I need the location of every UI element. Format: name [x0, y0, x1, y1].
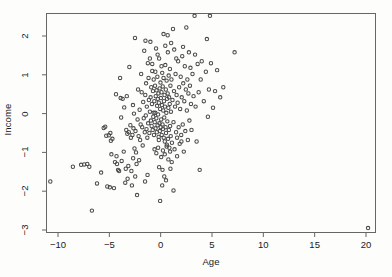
data-point [193, 53, 196, 56]
data-point [168, 150, 171, 153]
y-tick-label: 0 [19, 101, 31, 127]
data-point [156, 75, 159, 78]
data-point [161, 123, 164, 126]
data-point [149, 96, 152, 99]
data-point [172, 89, 175, 92]
data-point [163, 175, 166, 178]
data-point [135, 162, 138, 165]
data-point [171, 98, 174, 101]
data-point [139, 72, 142, 75]
data-point [127, 164, 130, 167]
data-point [111, 137, 114, 140]
data-point [186, 78, 189, 81]
data-point [173, 105, 176, 108]
data-point [183, 99, 186, 102]
data-point [140, 125, 143, 128]
data-point [150, 86, 153, 89]
data-point [192, 94, 195, 97]
y-tick-label: −1 [19, 139, 31, 165]
data-point [145, 127, 148, 130]
data-point [165, 111, 168, 114]
data-point [149, 119, 152, 122]
x-tick-label: 10 [243, 239, 283, 250]
data-point [157, 57, 160, 60]
data-point [120, 159, 123, 162]
data-point [162, 32, 165, 35]
data-point [175, 57, 178, 60]
data-point [143, 180, 146, 183]
data-point [150, 124, 153, 127]
data-point [222, 86, 225, 89]
y-tick-label: −2 [19, 178, 31, 204]
tick-marks [42, 36, 366, 237]
data-point [207, 88, 210, 91]
scatter-points [49, 14, 370, 230]
data-point [134, 175, 137, 178]
data-point [170, 78, 173, 81]
data-point [161, 85, 164, 88]
data-point [146, 173, 149, 176]
data-point [157, 165, 160, 168]
data-point [143, 49, 146, 52]
data-point [157, 138, 160, 141]
y-axis-title: Income [2, 88, 13, 152]
data-point [95, 182, 98, 185]
data-point [180, 140, 183, 143]
data-point [124, 181, 127, 184]
data-point [144, 39, 147, 42]
data-point [156, 113, 159, 116]
data-point [181, 123, 184, 126]
data-point [144, 93, 147, 96]
data-point [152, 78, 155, 81]
data-point [182, 150, 185, 153]
data-point [184, 88, 187, 91]
data-point [190, 128, 193, 131]
data-point [177, 125, 180, 128]
y-tick-label: 2 [19, 23, 31, 49]
data-point [119, 116, 122, 119]
data-point [156, 53, 159, 56]
scatter-plot-figure: Age Income −10−505101520 210−1−2−3 [0, 0, 392, 277]
data-point [194, 105, 197, 108]
data-point [133, 147, 136, 150]
data-point [141, 144, 144, 147]
data-point [213, 89, 216, 92]
data-point [112, 186, 115, 189]
data-point [195, 140, 198, 143]
plot-canvas [0, 0, 392, 277]
data-point [179, 75, 182, 78]
data-point [175, 136, 178, 139]
data-point [196, 62, 199, 65]
axis-frame [47, 14, 376, 233]
data-point [170, 160, 173, 163]
data-point [164, 44, 167, 47]
data-point [155, 117, 158, 120]
data-point [147, 76, 150, 79]
data-point [146, 61, 149, 64]
data-point [171, 27, 174, 30]
data-point [202, 99, 205, 102]
data-point [128, 65, 131, 68]
data-point [148, 110, 151, 113]
data-point [144, 114, 147, 117]
data-point [181, 45, 184, 48]
x-tick-label: 5 [192, 239, 232, 250]
data-point [164, 125, 167, 128]
data-point [136, 118, 139, 121]
data-point [173, 48, 176, 51]
data-point [136, 88, 139, 91]
data-point [175, 155, 178, 158]
data-point [167, 96, 170, 99]
data-point [188, 119, 191, 122]
data-point [167, 74, 170, 77]
data-point [138, 108, 141, 111]
data-point [165, 79, 168, 82]
data-point [71, 165, 74, 168]
data-point [185, 109, 188, 112]
data-point [153, 120, 156, 123]
data-point [99, 171, 102, 174]
data-point [184, 129, 187, 132]
data-point [115, 162, 118, 165]
data-point [109, 131, 112, 134]
data-point [169, 41, 172, 44]
